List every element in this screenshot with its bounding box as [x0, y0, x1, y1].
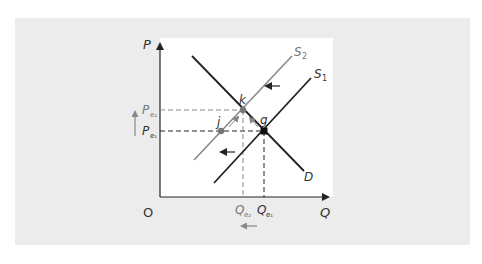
point-g-label: g [260, 113, 268, 127]
supply-1-label: S 1 [314, 67, 327, 83]
svg-text:S: S [314, 67, 322, 81]
svg-text:P: P [142, 124, 150, 138]
qe1-label: Q e₁ [257, 203, 273, 219]
svg-text:e₁: e₁ [150, 132, 157, 140]
pe1-label: P e₁ [142, 124, 157, 140]
demand-label: D [304, 170, 313, 184]
dashed-guides [160, 110, 264, 197]
origin-label: O [143, 205, 153, 220]
x-axis-label: Q [320, 205, 330, 220]
y-axis-label: P [143, 37, 151, 52]
supply-2-label: S 2 [294, 45, 307, 61]
qe2-label: Q e₂ [235, 203, 251, 219]
svg-text:1: 1 [322, 74, 327, 83]
point-k-label: k [239, 93, 247, 107]
point-g [261, 128, 268, 135]
svg-text:e₁: e₁ [266, 211, 273, 219]
svg-text:2: 2 [302, 52, 307, 61]
point-k [240, 107, 246, 113]
svg-text:e₂: e₂ [150, 111, 157, 119]
svg-text:e₂: e₂ [244, 211, 251, 219]
point-j-label: j [215, 115, 221, 129]
svg-text:S: S [294, 45, 302, 59]
demand-curve [192, 56, 304, 171]
pe2-label: P e₂ [142, 103, 157, 119]
supply-demand-diagram: P Q O D S 1 S 2 k g j P e₂ P e₁ Q e₂ Q e… [0, 0, 482, 264]
svg-text:P: P [142, 103, 150, 117]
